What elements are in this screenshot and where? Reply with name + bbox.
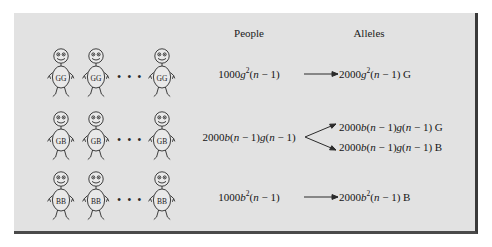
diagram-panel: People Alleles: [14, 13, 478, 234]
person-icon: [81, 170, 111, 222]
person-icon: [46, 170, 76, 222]
person-figure: GG: [81, 47, 111, 99]
person-icon: [46, 110, 76, 162]
person-figure-group: GB: [44, 108, 189, 166]
person-figure: GB: [46, 110, 76, 162]
alleles-cell: 2000b2(n − 1) B: [339, 168, 489, 226]
person-icon: [46, 47, 76, 99]
person-figure: BB: [81, 170, 111, 222]
allele-formula: 2000b(n − 1)g(n − 1) G: [339, 117, 443, 138]
person-icon: [81, 110, 111, 162]
person-figure: GB: [81, 110, 111, 162]
allele-formula: 2000b(n − 1)g(n − 1) B: [339, 137, 442, 158]
people-formula: 2000b(n − 1)g(n − 1): [202, 129, 295, 146]
ellipsis: • • •: [114, 71, 146, 83]
person-icon: [81, 47, 111, 99]
genotype-row-bb: BB: [14, 168, 475, 228]
person-figure: BB: [46, 170, 76, 222]
people-formula: 1000g2(n − 1): [218, 65, 279, 82]
allele-formula: 2000b2(n − 1) B: [339, 186, 410, 207]
people-formula: 1000b2(n − 1): [218, 188, 279, 205]
ellipsis: • • •: [114, 134, 146, 146]
genotype-row-gg: GG: [14, 45, 475, 105]
alleles-cell: 2000b(n − 1)g(n − 1) G 2000b(n − 1)g(n −…: [339, 108, 489, 166]
person-figure-group: BB: [44, 168, 189, 226]
person-figure: GG: [46, 47, 76, 99]
person-figure-group: GG: [44, 45, 189, 103]
genotype-row-gb: GB: [14, 108, 475, 168]
column-headers: People Alleles: [14, 27, 475, 43]
alleles-cell: 2000g2(n − 1) G: [339, 45, 489, 103]
allele-formula: 2000g2(n − 1) G: [339, 63, 411, 84]
column-header-alleles: Alleles: [314, 27, 424, 39]
column-header-people: People: [194, 27, 304, 39]
ellipsis: • • •: [114, 194, 146, 206]
